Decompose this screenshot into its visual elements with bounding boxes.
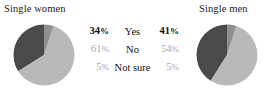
legend-row: 61%No54% bbox=[84, 40, 180, 58]
pie-slices-single-men bbox=[196, 25, 257, 86]
legend-value-men: 41% bbox=[154, 22, 180, 40]
legend-row: 34%Yes41% bbox=[84, 22, 180, 40]
panel-title-single-men: Single men bbox=[199, 3, 248, 14]
pie-svg-single-men bbox=[196, 24, 258, 86]
panel-title-single-women: Single women bbox=[4, 3, 66, 14]
legend-label: Not sure bbox=[111, 58, 154, 76]
legend-row: 5%Not sure5% bbox=[84, 58, 180, 76]
pie-chart-figure: Single women 34%Yes41%61%No54%5%Not sure… bbox=[0, 0, 263, 90]
legend-label: Yes bbox=[111, 22, 154, 40]
legend-label: No bbox=[111, 40, 154, 58]
pie-svg-single-women bbox=[13, 24, 75, 86]
legend-value-men: 54% bbox=[154, 40, 180, 58]
shared-legend: 34%Yes41%61%No54%5%Not sure5% bbox=[84, 22, 180, 76]
pie-chart-single-men bbox=[196, 24, 258, 86]
legend-value-women: 34% bbox=[84, 22, 111, 40]
legend-value-men: 5% bbox=[154, 58, 180, 76]
pie-chart-single-women bbox=[13, 24, 75, 86]
legend-value-women: 5% bbox=[84, 58, 111, 76]
pie-slices-single-women bbox=[13, 25, 74, 86]
legend-value-women: 61% bbox=[84, 40, 111, 58]
legend-rows: 34%Yes41%61%No54%5%Not sure5% bbox=[84, 22, 180, 76]
